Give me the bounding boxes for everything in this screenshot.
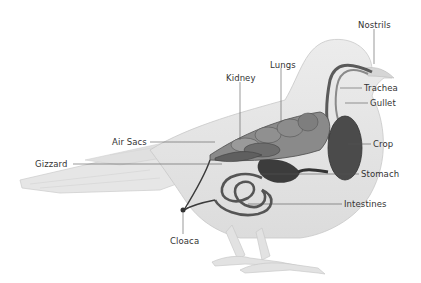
label-intestines: Intestines xyxy=(344,199,387,209)
label-kidney: Kidney xyxy=(226,73,256,83)
label-cloaca: Cloaca xyxy=(170,236,199,246)
label-lungs: Lungs xyxy=(270,60,296,70)
label-crop: Crop xyxy=(373,139,393,149)
crop-organ xyxy=(328,116,362,180)
label-stomach: Stomach xyxy=(361,169,399,179)
label-nostrils: Nostrils xyxy=(358,20,391,30)
cloaca-organ xyxy=(181,208,186,213)
bird-illustration xyxy=(0,0,421,283)
label-trachea: Trachea xyxy=(364,83,398,93)
bird-anatomy-diagram: Nostrils Lungs Kidney Trachea Gullet Air… xyxy=(0,0,421,283)
label-gullet: Gullet xyxy=(370,98,396,108)
label-gizzard: Gizzard xyxy=(35,159,68,169)
label-air-sacs: Air Sacs xyxy=(112,137,147,147)
